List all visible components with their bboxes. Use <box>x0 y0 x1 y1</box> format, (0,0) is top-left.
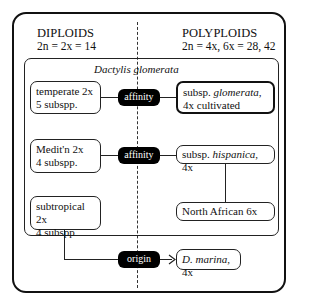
diploids-header: DIPLOIDS 2n = 2x = 14 <box>37 27 96 53</box>
box-line: 4x cultivated <box>183 99 268 112</box>
polyploids-title: POLYPLOIDS <box>182 27 275 40</box>
polyploids-formula: 2n = 4x, 6x = 28, 42 <box>182 40 275 53</box>
box-italic-text: glomerata <box>214 86 259 98</box>
box-line: subtropical 2x <box>36 200 95 226</box>
box-italic-text: hispanica <box>213 148 256 160</box>
box-text: North African 6x <box>182 205 257 217</box>
box-line: 4 subspp <box>36 226 95 239</box>
temperate-2x-box: temperate 2x 5 subspp. <box>30 81 101 114</box>
box-text: subsp. <box>183 86 214 98</box>
species-label: Dactylis glomerata <box>94 63 234 75</box>
polyploids-header: POLYPLOIDS 2n = 4x, 6x = 28, 42 <box>182 27 275 53</box>
d-marina-box: D. marina, 4x <box>176 249 241 270</box>
box-line: subsp. glomerata, <box>183 86 268 99</box>
box-line: Medit'n 2x <box>36 143 95 156</box>
box-line: 5 subspp. <box>36 98 95 111</box>
origin-pill: origin <box>118 251 160 268</box>
affinity-pill-1: affinity <box>118 89 160 106</box>
subsp-glomerata-box: subsp. glomerata, 4x cultivated <box>176 81 275 114</box>
box-text: subsp. <box>182 148 213 160</box>
diploids-title: DIPLOIDS <box>37 27 96 40</box>
affinity-pill-2: affinity <box>118 147 160 164</box>
box-italic-text: D. marina <box>182 253 227 265</box>
mediterranean-2x-box: Medit'n 2x 4 subspp. <box>30 139 101 173</box>
box-text: , <box>259 86 262 98</box>
box-line: 4 subspp. <box>36 156 95 169</box>
subsp-hispanica-box: subsp. hispanica, 4x <box>176 145 275 164</box>
box-line: temperate 2x <box>36 85 95 98</box>
hispanica-to-north-african-line <box>225 163 226 202</box>
north-african-6x-box: North African 6x <box>176 202 275 221</box>
diploids-formula: 2n = 2x = 14 <box>37 40 96 53</box>
subtropical-2x-box: subtropical 2x 4 subspp <box>30 196 101 230</box>
